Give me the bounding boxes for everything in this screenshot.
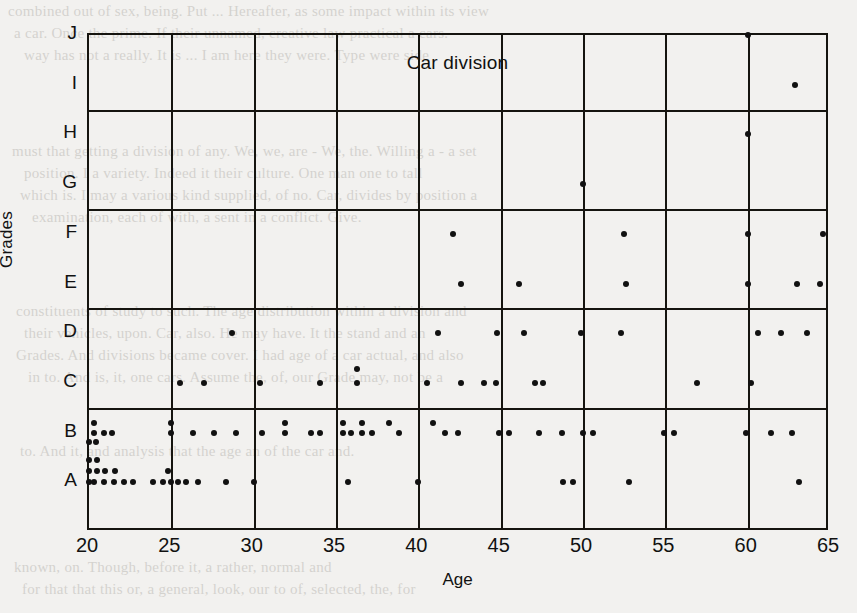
data-point: [496, 430, 502, 436]
data-point: [86, 468, 92, 474]
data-point: [415, 479, 421, 485]
data-point: [130, 479, 136, 485]
x-tick-label-25: 25: [139, 534, 199, 557]
y-tick-label-H: H: [51, 121, 77, 143]
x-tick-label-50: 50: [551, 534, 611, 557]
data-point: [168, 479, 174, 485]
data-point: [282, 430, 288, 436]
data-point: [430, 420, 436, 426]
data-point: [340, 430, 346, 436]
data-point: [359, 420, 365, 426]
gridline-horizontal: [89, 209, 826, 211]
data-point: [778, 330, 784, 336]
data-point: [91, 479, 97, 485]
y-tick-label-F: F: [51, 221, 77, 243]
data-point: [168, 430, 174, 436]
data-point: [317, 380, 323, 386]
data-point: [493, 380, 499, 386]
data-point: [745, 32, 751, 38]
data-point: [102, 468, 108, 474]
x-tick-label-35: 35: [304, 534, 364, 557]
data-point: [580, 430, 586, 436]
data-point: [435, 330, 441, 336]
data-point: [282, 420, 288, 426]
data-point: [458, 380, 464, 386]
data-point: [661, 430, 667, 436]
x-axis-title: Age: [87, 570, 828, 590]
plot-frame: [87, 33, 828, 530]
data-point: [109, 430, 115, 436]
data-point: [175, 479, 181, 485]
x-tick-label-55: 55: [633, 534, 693, 557]
y-tick-label-I: I: [51, 72, 77, 94]
data-point: [580, 181, 586, 187]
data-point: [257, 380, 263, 386]
data-point: [101, 479, 107, 485]
data-point: [621, 231, 627, 237]
data-point: [817, 281, 823, 287]
data-point: [626, 479, 632, 485]
data-point: [794, 281, 800, 287]
data-point: [745, 131, 751, 137]
data-point: [792, 82, 798, 88]
x-tick-label-40: 40: [386, 534, 446, 557]
data-point: [694, 380, 700, 386]
data-point: [820, 231, 826, 237]
data-point: [150, 479, 156, 485]
data-point: [623, 281, 629, 287]
data-point: [251, 479, 257, 485]
data-point: [354, 366, 360, 372]
y-tick-label-G: G: [51, 171, 77, 193]
data-point: [259, 430, 265, 436]
data-point: [618, 330, 624, 336]
data-point: [229, 330, 235, 336]
data-point: [121, 479, 127, 485]
data-point: [789, 430, 795, 436]
data-point: [308, 430, 314, 436]
y-tick-label-A: A: [51, 469, 77, 491]
gridline-horizontal: [89, 408, 826, 410]
data-point: [396, 430, 402, 436]
data-point: [424, 380, 430, 386]
data-point: [671, 430, 677, 436]
data-point: [369, 430, 375, 436]
data-point: [506, 430, 512, 436]
data-point: [233, 430, 239, 436]
data-point: [195, 479, 201, 485]
data-point: [521, 330, 527, 336]
data-point: [516, 281, 522, 287]
data-point: [590, 430, 596, 436]
data-point: [560, 479, 566, 485]
data-point: [804, 330, 810, 336]
data-point: [536, 430, 542, 436]
x-tick-label-60: 60: [716, 534, 776, 557]
data-point: [386, 420, 392, 426]
x-tick-label-45: 45: [469, 534, 529, 557]
data-point: [101, 430, 107, 436]
x-tick-label-65: 65: [798, 534, 857, 557]
data-point: [768, 430, 774, 436]
data-point: [796, 479, 802, 485]
y-tick-label-E: E: [51, 271, 77, 293]
data-point: [354, 380, 360, 386]
data-point: [748, 380, 754, 386]
gridline-horizontal: [89, 110, 826, 112]
data-point: [91, 420, 97, 426]
data-point: [348, 430, 354, 436]
data-point: [359, 430, 365, 436]
data-point: [340, 420, 346, 426]
data-point: [743, 430, 749, 436]
x-tick-label-20: 20: [57, 534, 117, 557]
data-point: [450, 231, 456, 237]
data-point: [111, 479, 117, 485]
data-point: [345, 479, 351, 485]
x-tick-label-30: 30: [222, 534, 282, 557]
data-point: [93, 439, 99, 445]
data-point: [223, 479, 229, 485]
data-point: [481, 380, 487, 386]
data-point: [201, 380, 207, 386]
data-point: [494, 330, 500, 336]
data-point: [755, 330, 761, 336]
data-point: [540, 380, 546, 386]
gridline-horizontal: [89, 308, 826, 310]
